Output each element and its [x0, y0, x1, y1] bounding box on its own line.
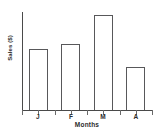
x-tick-label-m: M: [93, 113, 113, 121]
x-tick-boundary-2: [87, 110, 88, 115]
x-tick-label-f: F: [61, 113, 81, 121]
x-axis-title: Months: [22, 121, 152, 128]
bar-chart: JFMA Months Sales ($): [0, 0, 156, 134]
bar-j: [29, 49, 48, 110]
x-tick-boundary-3: [120, 110, 121, 115]
y-axis-title: Sales ($): [7, 26, 13, 70]
x-tick-label-j: J: [28, 113, 48, 121]
bar-m: [94, 15, 113, 110]
bar-f: [61, 44, 80, 110]
x-tick-boundary-1: [55, 110, 56, 115]
bar-a: [126, 67, 145, 110]
x-tick-label-a: A: [126, 113, 146, 121]
x-tick-boundary-0: [22, 110, 23, 115]
x-tick-boundary-4: [152, 110, 153, 115]
